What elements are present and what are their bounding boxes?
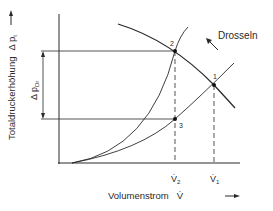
operating-point-1	[212, 83, 216, 87]
point-label-1: 1	[213, 73, 217, 80]
x-axis-arrow-head	[234, 194, 240, 198]
throttle-label: Drosseln	[218, 30, 257, 41]
delta-pressure-label: Δ pDr	[29, 81, 40, 100]
operating-point-3	[173, 117, 177, 121]
x-tick-v1: V̇1	[210, 174, 220, 185]
point-label-3: 3	[179, 122, 183, 129]
operating-point-2	[173, 49, 177, 53]
delta-arrow-head-up	[41, 51, 45, 57]
system-curve-throttled	[72, 27, 188, 163]
point-label-2: 2	[170, 40, 174, 47]
delta-label-group: Δ pDr	[29, 81, 40, 100]
fan-characteristic-diagram: 2 1 3 Drosseln V̇2 V̇1 VolumenstromV̇ To…	[0, 0, 273, 211]
x-tick-v2: V̇2	[171, 174, 181, 185]
x-axis-label: VolumenstromV̇	[108, 190, 184, 201]
y-axis-arrow-head	[9, 10, 13, 16]
y-axis-label: TotaldruckerhöhungΔ pt	[6, 35, 18, 140]
y-axis-label-group: TotaldruckerhöhungΔ pt	[6, 35, 18, 140]
system-curve-open	[72, 63, 234, 163]
delta-arrow-head-down	[41, 113, 45, 119]
